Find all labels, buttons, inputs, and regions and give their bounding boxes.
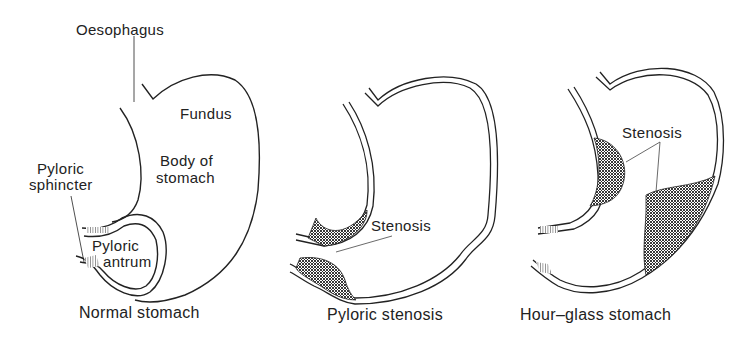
- label-sphincter-line2: sphincter: [29, 176, 93, 193]
- label-sphincter-line1: Pyloric: [37, 160, 84, 177]
- label-fundus: Fundus: [180, 105, 232, 122]
- label-stenosis-pyloric: Stenosis: [371, 217, 431, 234]
- label-body-line1: Body of: [160, 152, 213, 169]
- caption-hourglass-stomach: Hour–glass stomach: [520, 306, 671, 324]
- label-body-line2: stomach: [156, 169, 215, 186]
- label-oesophagus: Oesophagus: [76, 21, 164, 38]
- caption-pyloric-stenosis: Pyloric stenosis: [327, 306, 443, 324]
- label-antrum-line2: antrum: [103, 253, 152, 270]
- hourglass-stomach-drawing: [531, 68, 724, 292]
- label-stenosis-hourglass: Stenosis: [622, 124, 682, 141]
- label-antrum-line1: Pyloric: [92, 237, 139, 254]
- stomach-diagrams: [0, 0, 749, 341]
- caption-normal-stomach: Normal stomach: [79, 304, 200, 322]
